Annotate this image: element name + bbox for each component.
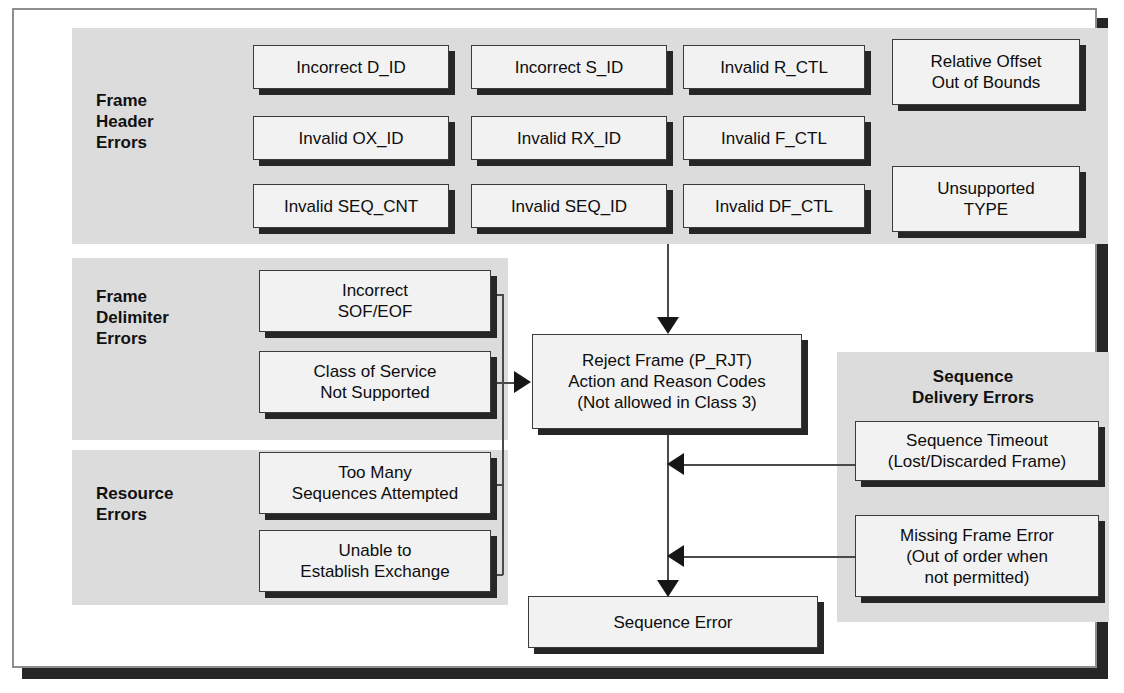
node-too-many-sequences-attempted[interactable]: Too Many Sequences Attempted — [259, 452, 491, 514]
node-reject-frame-p-rjt[interactable]: Reject Frame (P_RJT) Action and Reason C… — [532, 334, 802, 429]
diagram-canvas: Frame Header Errors Incorrect D_ID Incor… — [0, 0, 1124, 693]
node-invalid-ox-id[interactable]: Invalid OX_ID — [253, 116, 449, 160]
node-invalid-r-ctl[interactable]: Invalid R_CTL — [683, 45, 865, 89]
node-invalid-seq-cnt[interactable]: Invalid SEQ_CNT — [253, 184, 449, 228]
arrowhead-reject-to-sequence-error — [657, 580, 679, 597]
arrowhead-bus-to-reject — [514, 371, 531, 393]
group-title-frame-delimiter: Frame Delimiter Errors — [96, 286, 246, 349]
group-title-frame-header: Frame Header Errors — [96, 90, 226, 153]
connector-sequence-timeout — [684, 464, 856, 466]
connector-header-to-reject — [667, 244, 669, 322]
node-incorrect-d-id[interactable]: Incorrect D_ID — [253, 45, 449, 89]
group-title-resource: Resource Errors — [96, 483, 246, 525]
node-sequence-timeout[interactable]: Sequence Timeout (Lost/Discarded Frame) — [855, 421, 1099, 481]
group-title-sequence-delivery: Sequence Delivery Errors — [857, 366, 1089, 408]
node-unable-to-establish-exchange[interactable]: Unable to Establish Exchange — [259, 530, 491, 592]
arrowhead-sequence-timeout — [667, 453, 684, 475]
arrowhead-header-to-reject — [657, 317, 679, 334]
node-incorrect-sof-eof[interactable]: Incorrect SOF/EOF — [259, 270, 491, 332]
frame-shadow-bottom — [22, 668, 1108, 679]
node-class-of-service-not-supported[interactable]: Class of Service Not Supported — [259, 351, 491, 413]
node-invalid-rx-id[interactable]: Invalid RX_ID — [471, 116, 667, 160]
node-missing-frame-error[interactable]: Missing Frame Error (Out of order when n… — [855, 515, 1099, 597]
node-invalid-seq-id[interactable]: Invalid SEQ_ID — [471, 184, 667, 228]
node-invalid-f-ctl[interactable]: Invalid F_CTL — [683, 116, 865, 160]
arrowhead-missing-frame-error — [667, 545, 684, 567]
node-sequence-error[interactable]: Sequence Error — [528, 596, 818, 648]
node-unsupported-type[interactable]: Unsupported TYPE — [892, 166, 1080, 232]
node-incorrect-s-id[interactable]: Incorrect S_ID — [471, 45, 667, 89]
node-invalid-df-ctl[interactable]: Invalid DF_CTL — [683, 184, 865, 228]
connector-missing-frame-error — [684, 556, 856, 558]
node-relative-offset-out-of-bounds[interactable]: Relative Offset Out of Bounds — [892, 39, 1080, 105]
connector-left-bus — [502, 294, 504, 575]
